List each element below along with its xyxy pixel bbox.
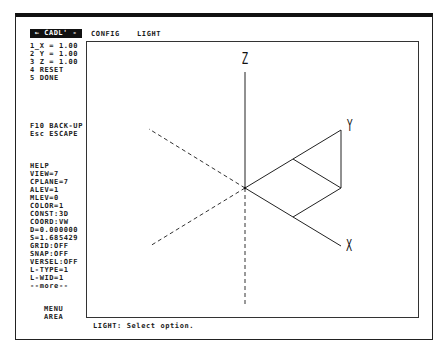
command-prompt: LIGHT: Select option.	[93, 322, 194, 330]
z-axis-label: Z	[242, 50, 248, 68]
y-axis-label: Y	[347, 117, 353, 135]
axis-diagram	[0, 0, 444, 354]
x-axis-label: X	[346, 237, 352, 255]
